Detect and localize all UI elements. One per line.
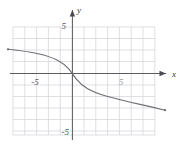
x-tick-label-positive-5: 5 [119,77,124,87]
curve-left-endpoint [7,48,9,50]
x-tick-label-negative-5: -5 [31,77,39,87]
graph-canvas: 5 -5 -5 5 y x [0,0,182,150]
axis-lines [10,10,166,140]
y-axis-arrow [70,10,75,17]
curve-right-endpoint [164,109,166,111]
x-axis-arrow [160,71,167,76]
coordinate-plane-graph: 5 -5 -5 5 y x [0,0,182,150]
y-axis-label: y [76,5,81,15]
y-tick-label-negative-5: -5 [62,127,70,137]
x-axis-label: x [171,69,176,79]
y-tick-label-positive-5: 5 [62,21,67,31]
